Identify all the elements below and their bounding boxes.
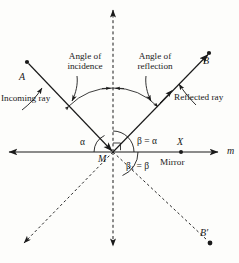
span-arc (69, 88, 158, 107)
beta1-equals-beta-label: β1 = β (126, 161, 149, 172)
angle-of-reflection-label: Angle of reflection (125, 52, 185, 72)
alpha-label: α (80, 137, 85, 147)
point-m-label: M (98, 154, 106, 165)
point-x-dot (179, 150, 183, 154)
reflected-ray-label: Reflected ray (174, 93, 223, 103)
angle-of-incidence-line2: incidence (56, 62, 114, 72)
point-x-label: X (177, 137, 183, 148)
point-b-label: B (203, 56, 209, 67)
point-a-label: A (19, 72, 25, 83)
beta-equals-alpha-label: β = α (137, 136, 157, 146)
mirror-label: Mirror (160, 158, 185, 168)
point-b-prime-dot (208, 241, 213, 246)
point-b-prime-label: B′ (200, 228, 208, 239)
right-angle-marker (113, 143, 121, 150)
dashed-extension-left (24, 152, 113, 243)
incoming-ray (25, 60, 112, 151)
angle-of-reflection-line2: reflection (125, 62, 185, 72)
line-m-label: m (227, 146, 234, 157)
beta1-suffix: = β (134, 161, 149, 171)
incoming-ray-label: Incoming ray (1, 94, 50, 104)
angle-of-incidence-label: Angle of incidence (56, 52, 114, 72)
diagram-canvas (0, 0, 239, 263)
point-a-dot (25, 60, 29, 64)
reflection-diagram: Angle of incidence Angle of reflection I… (0, 0, 239, 263)
incidence-caption-pointer (72, 76, 77, 101)
